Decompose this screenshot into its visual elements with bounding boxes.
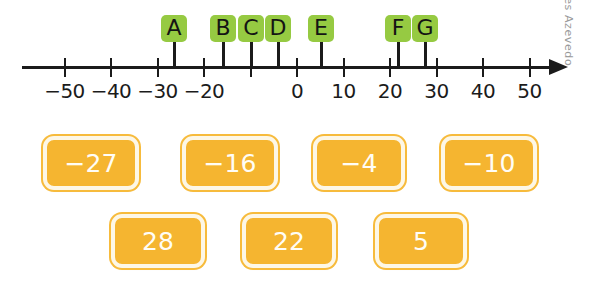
axis-tick-label: 50 <box>499 79 561 103</box>
marker-label-e: E <box>308 15 334 42</box>
axis-tick <box>529 58 531 77</box>
marker-stem <box>397 41 400 68</box>
marker-label-a: A <box>161 15 187 42</box>
value-card[interactable]: 28 <box>111 214 205 268</box>
marker-label-g: G <box>412 15 438 42</box>
value-card[interactable]: 22 <box>242 214 336 268</box>
marker-stem <box>222 41 225 68</box>
axis-tick <box>157 58 159 77</box>
marker-stem <box>250 41 253 68</box>
axis-tick <box>203 58 205 77</box>
marker-label-d: D <box>265 15 291 42</box>
axis-tick <box>343 58 345 77</box>
value-card[interactable]: −10 <box>441 136 537 190</box>
value-card-label: −4 <box>341 151 378 176</box>
value-card[interactable]: −4 <box>313 136 405 190</box>
marker-stem <box>277 41 280 68</box>
marker-label-c: C <box>238 15 264 42</box>
axis-tick <box>482 58 484 77</box>
value-cards-area: −27−16−4−1028225 <box>0 115 606 293</box>
marker-label-b: B <box>210 15 236 42</box>
watermark-credit: Tamires Azevedo <box>562 0 575 85</box>
value-card-label: −16 <box>204 151 257 176</box>
value-card-label: 28 <box>142 229 174 254</box>
value-card-label: 5 <box>413 229 429 254</box>
value-card-label: −10 <box>463 151 516 176</box>
axis-tick <box>389 58 391 77</box>
value-card-label: −27 <box>65 151 118 176</box>
marker-stem <box>320 41 323 68</box>
marker-stem <box>173 41 176 68</box>
value-card[interactable]: −27 <box>43 136 139 190</box>
axis-line <box>22 66 557 69</box>
marker-stem <box>424 41 427 68</box>
axis-tick <box>64 58 66 77</box>
axis-tick <box>296 58 298 77</box>
number-line-figure: −50−40−30−2001020304050 ABCDEFG Tamires … <box>0 0 606 115</box>
marker-label-f: F <box>385 15 411 42</box>
axis-tick <box>436 58 438 77</box>
value-card[interactable]: −16 <box>182 136 278 190</box>
axis-tick-label: −20 <box>173 79 235 103</box>
value-card[interactable]: 5 <box>375 214 467 268</box>
value-card-label: 22 <box>273 229 305 254</box>
axis-tick <box>110 58 112 77</box>
